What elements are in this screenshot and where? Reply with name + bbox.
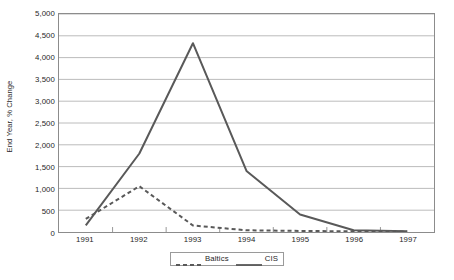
x-axis-tick-labels: 1991199219931994199519961997 [58, 235, 435, 249]
x-axis-tick-label: 1997 [399, 235, 417, 244]
gridlines [59, 14, 434, 232]
series-line-cis [86, 43, 407, 231]
y-axis-tick-label: 1,500 [35, 163, 55, 172]
y-axis-tick-label: 5,000 [35, 9, 55, 18]
x-axis-tick-label: 1996 [345, 235, 363, 244]
y-axis-tick-label: 500 [42, 207, 55, 216]
y-axis-tick-label: 0 [51, 229, 55, 238]
legend-label: Baltics [205, 254, 229, 263]
y-axis-title: End Year, % Change [1, 0, 19, 232]
y-axis-tick-label: 2,000 [35, 141, 55, 150]
chart-legend: BalticsCIS [170, 252, 284, 266]
legend-entry-baltics[interactable]: Baltics [176, 254, 229, 263]
series-lines [86, 43, 407, 231]
x-axis-tick-label: 1994 [238, 235, 256, 244]
x-axis-tick-label: 1992 [130, 235, 148, 244]
y-axis-tick-label: 1,000 [35, 185, 55, 194]
legend-entry-cis[interactable]: CIS [236, 254, 278, 263]
y-axis-tick-label: 3,500 [35, 75, 55, 84]
y-axis-tick-labels: 05001,0001,5002,0002,5003,0003,5004,0004… [18, 0, 58, 232]
x-axis-tick-label: 1993 [184, 235, 202, 244]
plot-area [58, 13, 435, 233]
solid-line-icon [236, 255, 262, 263]
y-axis-tick-label: 4,500 [35, 31, 55, 40]
y-axis-title-text: End Year, % Change [6, 80, 15, 152]
y-axis-tick-label: 2,500 [35, 119, 55, 128]
y-axis-tick-label: 4,000 [35, 53, 55, 62]
dashed-line-icon [176, 255, 202, 263]
line-chart: End Year, % Change 05001,0001,5002,0002,… [0, 0, 454, 280]
y-axis-tick-label: 3,000 [35, 97, 55, 106]
plot-canvas [59, 14, 434, 232]
x-axis-tick-label: 1995 [291, 235, 309, 244]
series-line-baltics [86, 186, 407, 231]
legend-label: CIS [265, 254, 278, 263]
x-axis-tick-label: 1991 [76, 235, 94, 244]
